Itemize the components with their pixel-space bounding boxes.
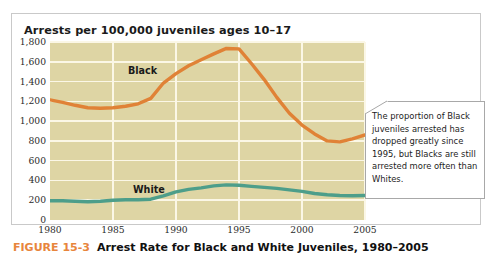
callout-text: The proportion of Black juveniles arrest…: [372, 110, 478, 186]
series-label-black: Black: [128, 65, 157, 76]
y-tick-label: 1,600: [2, 56, 46, 67]
y-tick-label: 1,000: [2, 115, 46, 126]
x-tick-label: 1985: [101, 224, 124, 235]
x-tick-label: 1990: [164, 224, 187, 235]
figure-caption: FIGURE 15-3Arrest Rate for Black and Whi…: [13, 240, 483, 256]
x-tick-label: 2005: [353, 224, 376, 235]
plot-area: [50, 42, 365, 220]
chart-title: Arrests per 100,000 juveniles ages 10–17: [24, 24, 291, 37]
y-tick-label: 1,400: [2, 76, 46, 87]
figure-number: FIGURE 15-3: [13, 241, 90, 254]
x-tick-label: 1995: [227, 224, 250, 235]
black-series-line: [50, 48, 365, 141]
x-tick-label: 2000: [290, 224, 313, 235]
white-series-line: [50, 185, 365, 202]
figure-screenshot: Arrests per 100,000 juveniles ages 10–17…: [0, 0, 496, 276]
x-tick-label: 1980: [38, 224, 61, 235]
y-tick-label: 200: [2, 194, 46, 205]
series-lines: [50, 42, 365, 220]
y-tick-label: 600: [2, 155, 46, 166]
y-axis-ticks: 1,8001,6001,4001,2001,0008006004002000: [0, 42, 46, 220]
figure-caption-text: Arrest Rate for Black and White Juvenile…: [97, 241, 429, 254]
y-tick-label: 1,800: [2, 36, 46, 47]
y-tick-label: 1,200: [2, 95, 46, 106]
y-tick-label: 400: [2, 174, 46, 185]
series-label-white: White: [133, 184, 165, 195]
x-axis-ticks: 198019851990199520002005: [50, 224, 365, 238]
y-tick-label: 800: [2, 135, 46, 146]
